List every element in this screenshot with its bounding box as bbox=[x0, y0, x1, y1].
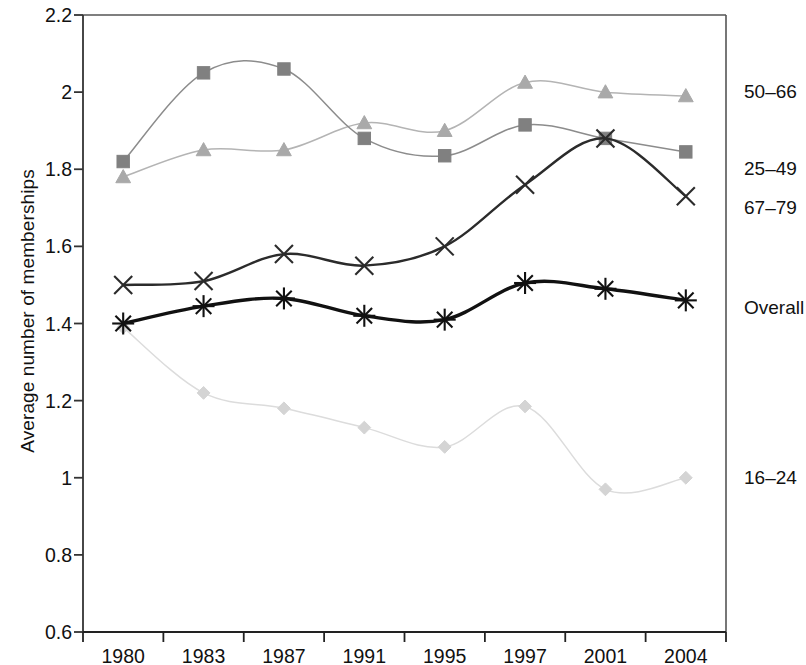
data-point-triangle bbox=[116, 170, 131, 183]
data-point-square bbox=[438, 150, 450, 162]
marker-square bbox=[278, 63, 290, 75]
x-tick-label: 1991 bbox=[343, 645, 386, 665]
plot-area bbox=[0, 0, 806, 665]
data-point-diamond bbox=[679, 471, 692, 484]
x-tick-label: 1987 bbox=[262, 645, 305, 665]
marker-diamond bbox=[519, 400, 532, 413]
data-point-diamond bbox=[519, 400, 532, 413]
data-point-square bbox=[358, 132, 370, 144]
x-tick-label: 1995 bbox=[423, 645, 466, 665]
data-point-x bbox=[436, 237, 454, 255]
data-point-square bbox=[519, 119, 531, 131]
marker-diamond bbox=[599, 483, 612, 496]
data-point-diamond bbox=[278, 402, 291, 415]
data-point-asterisk bbox=[193, 295, 215, 317]
data-point-x bbox=[677, 187, 695, 205]
series-line bbox=[123, 138, 686, 285]
data-point-square bbox=[278, 63, 290, 75]
x-tick-label: 1997 bbox=[503, 645, 546, 665]
series-label: 16–24 bbox=[744, 467, 797, 489]
data-point-square bbox=[117, 155, 129, 167]
marker-diamond bbox=[197, 387, 210, 400]
series-label: Overall bbox=[744, 297, 804, 319]
x-tick-label: 1980 bbox=[101, 645, 144, 665]
marker-diamond bbox=[278, 402, 291, 415]
marker-square bbox=[117, 155, 129, 167]
data-point-asterisk bbox=[594, 278, 616, 300]
marker-triangle bbox=[116, 170, 131, 183]
data-point-diamond bbox=[438, 441, 451, 454]
data-point-asterisk bbox=[514, 272, 536, 294]
marker-diamond bbox=[679, 471, 692, 484]
marker-square bbox=[438, 150, 450, 162]
marker-triangle bbox=[437, 123, 452, 136]
marker-square bbox=[680, 146, 692, 158]
data-point-asterisk bbox=[353, 305, 375, 327]
x-tick-label: 2001 bbox=[584, 645, 627, 665]
marker-diamond bbox=[358, 421, 371, 434]
data-point-asterisk bbox=[112, 313, 134, 335]
series-label: 50–66 bbox=[744, 81, 797, 103]
data-point-diamond bbox=[599, 483, 612, 496]
marker-square bbox=[519, 119, 531, 131]
data-point-square bbox=[197, 67, 209, 79]
series-label: 67–79 bbox=[744, 197, 797, 219]
marker-square bbox=[358, 132, 370, 144]
data-point-diamond bbox=[358, 421, 371, 434]
data-point-asterisk bbox=[434, 309, 456, 331]
marker-square bbox=[197, 67, 209, 79]
data-point-square bbox=[680, 146, 692, 158]
data-point-x bbox=[516, 176, 534, 194]
data-point-asterisk bbox=[675, 289, 697, 311]
data-point-diamond bbox=[197, 387, 210, 400]
series-line bbox=[123, 327, 686, 493]
data-point-triangle bbox=[437, 123, 452, 136]
data-point-asterisk bbox=[273, 287, 295, 309]
marker-diamond bbox=[438, 441, 451, 454]
series-16–24 bbox=[117, 321, 692, 496]
x-tick-label: 1983 bbox=[182, 645, 225, 665]
chart-container: Average number of memberships 2.221.81.6… bbox=[0, 0, 806, 665]
series-label: 25–49 bbox=[744, 158, 797, 180]
series-50–66 bbox=[116, 75, 693, 183]
x-tick-label: 2004 bbox=[664, 645, 707, 665]
